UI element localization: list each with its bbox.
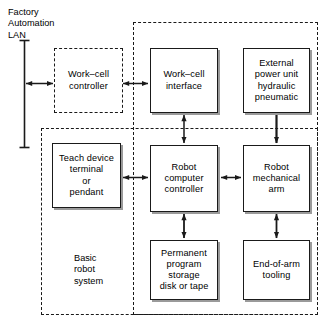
node-teach-device[interactable]: Teach device terminal or pendant: [52, 143, 121, 208]
node-external-power-unit[interactable]: External power unit hydraulic pneumatic: [243, 48, 310, 113]
node-robot-computer-controller-label: Robot computer controller: [162, 162, 205, 196]
robot-system-block-diagram: Factory Automation LAN Basic robot syste…: [0, 0, 334, 327]
node-teach-device-label: Teach device terminal or pendant: [57, 153, 116, 198]
node-permanent-program-storage[interactable]: Permanent program storage disk or tape: [150, 240, 218, 300]
node-work-cell-interface[interactable]: Work–cell interface: [150, 48, 218, 113]
node-robot-mechanical-arm-label: Robot mechanical arm: [251, 162, 302, 196]
node-end-of-arm-tooling-label: End-of-arm tooling: [251, 259, 302, 281]
node-work-cell-controller[interactable]: Work–cell controller: [54, 48, 123, 113]
node-external-power-unit-label: External power unit hydraulic pneumatic: [253, 58, 300, 103]
node-robot-mechanical-arm[interactable]: Robot mechanical arm: [243, 145, 310, 212]
node-end-of-arm-tooling[interactable]: End-of-arm tooling: [243, 240, 310, 300]
basic-robot-system-label: Basic robot system: [74, 253, 134, 287]
node-permanent-program-storage-label: Permanent program storage disk or tape: [158, 248, 211, 293]
node-work-cell-interface-label: Work–cell interface: [161, 69, 206, 91]
node-work-cell-controller-label: Work–cell controller: [66, 69, 111, 91]
node-robot-computer-controller[interactable]: Robot computer controller: [150, 145, 218, 212]
factory-automation-lan-label: Factory Automation LAN: [8, 7, 88, 41]
factory-automation-lan-bus: [20, 40, 30, 148]
